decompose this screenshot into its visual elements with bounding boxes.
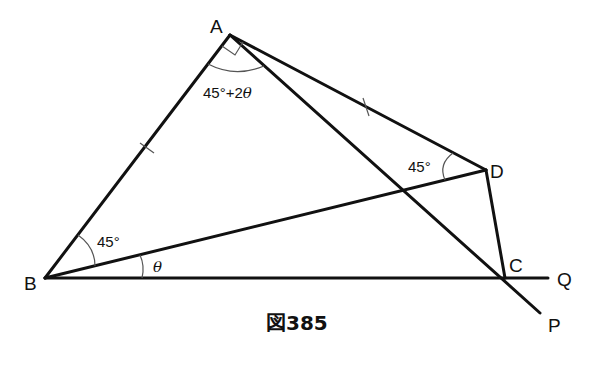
label-B: B: [24, 273, 37, 294]
angle-arc-B-upper: [78, 235, 95, 266]
figure-caption: 図385: [266, 311, 328, 335]
angle-label-B-upper: 45°: [97, 233, 120, 250]
angle-label-A: 45°+2θ: [203, 84, 252, 102]
label-C: C: [509, 255, 523, 276]
segment-AB: [45, 35, 230, 278]
segment-BD: [45, 170, 486, 278]
angle-label-D: 45°: [408, 158, 431, 175]
geometry-figure: A B C D Q P 45°+2θ 45° 45° θ 図385: [0, 0, 605, 365]
angle-arc-A: [208, 64, 264, 72]
angle-arc-B-lower: [140, 255, 143, 278]
angle-arc-D: [443, 153, 453, 180]
label-P: P: [548, 315, 561, 336]
label-Q: Q: [557, 269, 572, 290]
label-D: D: [490, 161, 504, 182]
segment-DC: [486, 170, 505, 278]
angle-label-B-lower: θ: [153, 258, 162, 276]
label-A: A: [210, 16, 223, 37]
